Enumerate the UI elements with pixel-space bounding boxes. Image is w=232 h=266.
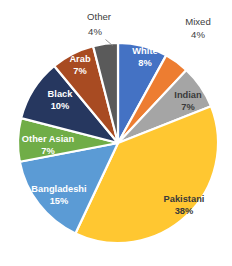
- slice-label-black-name: Black: [48, 89, 74, 99]
- slice-label-arab-name: Arab: [69, 54, 91, 64]
- slice-label-pakistani-name: Pakistani: [164, 194, 205, 204]
- slice-label-white-pct: 8%: [138, 58, 152, 68]
- pie-chart-svg: White 8% Mixed 4% Indian 7% Pakistani 38…: [0, 0, 232, 266]
- slice-label-other-name: Other: [87, 11, 112, 22]
- slice-label-other-pct: 4%: [88, 26, 102, 37]
- slice-label-bangladeshi-name: Bangladeshi: [31, 184, 86, 194]
- pie-chart-figure: White 8% Mixed 4% Indian 7% Pakistani 38…: [0, 0, 232, 266]
- slice-label-arab-pct: 7%: [73, 66, 87, 76]
- slice-label-bangladeshi-pct: 15%: [50, 196, 69, 206]
- slice-label-mixed-pct: 4%: [191, 29, 205, 40]
- slice-label-other-asian-name: Other Asian: [22, 134, 75, 144]
- slice-label-indian-name: Indian: [174, 90, 202, 100]
- slice-label-mixed-name: Mixed: [185, 16, 211, 27]
- slice-label-pakistani-pct: 38%: [175, 206, 194, 216]
- slice-label-white-name: White: [132, 46, 157, 56]
- slice-label-other-asian-pct: 7%: [41, 146, 55, 156]
- slice-label-indian-pct: 7%: [181, 102, 195, 112]
- slice-label-black-pct: 10%: [51, 101, 70, 111]
